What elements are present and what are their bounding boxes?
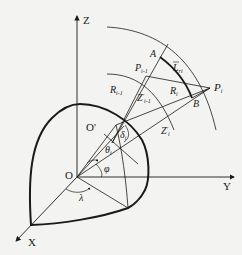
z-prev-label: Z'i-1: [137, 92, 151, 104]
o-prime-label: O': [86, 121, 96, 133]
point-a-label: A: [149, 48, 157, 59]
theta-label: θi: [105, 144, 112, 156]
diagram-canvas: Z Y X O O' A B Pi-1 Pi Lri Ri-1 Ri Z'i-1…: [0, 0, 242, 255]
phi-label: φ: [104, 163, 110, 174]
phi-arc: [96, 164, 102, 177]
p-prev-label: Pi-1: [134, 62, 148, 74]
line-o-bottom: [77, 177, 128, 208]
arc-l-label: Lri: [172, 62, 183, 74]
p-i-label: Pi: [213, 81, 223, 94]
x-axis-label: X: [28, 236, 36, 248]
point-b-label: B: [193, 98, 199, 109]
r-i-label: Ri: [169, 85, 178, 97]
z-axis-label: Z: [83, 14, 90, 26]
x-axis: [16, 177, 77, 241]
origin-label: O: [65, 169, 73, 181]
theta-arc: [87, 160, 98, 163]
z-i-label: Z'i: [161, 125, 170, 137]
line-p-prev-p-i: [146, 76, 210, 88]
lambda-label: λ: [78, 192, 84, 203]
lambda-arc: [66, 188, 90, 192]
delta-label: δi: [120, 129, 127, 141]
y-axis-label: Y: [223, 180, 231, 192]
r-prev-label: Ri-1: [109, 84, 123, 96]
